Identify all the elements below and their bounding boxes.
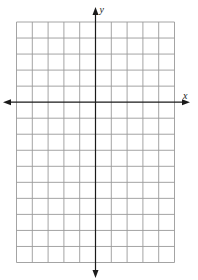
y-axis-down-arrow-icon [93,270,99,278]
axes: x y [3,4,190,278]
y-axis-label: y [99,4,105,15]
x-axis-left-arrow-icon [3,99,11,105]
x-axis-label: x [182,90,188,101]
coordinate-plane: x y [0,0,198,280]
y-axis-up-arrow-icon [93,7,99,15]
